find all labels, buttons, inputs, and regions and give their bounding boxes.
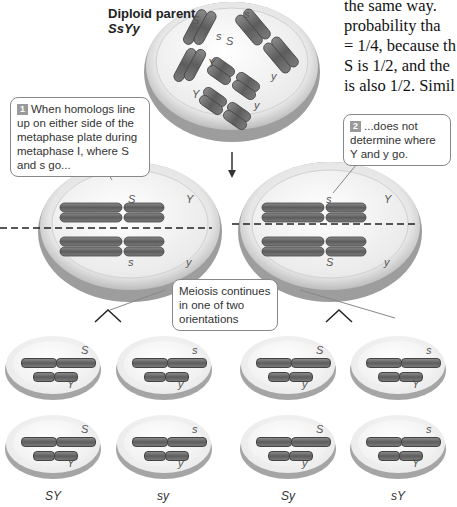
branch-arrow-left-icon [95, 310, 121, 322]
allele-label: s [326, 193, 332, 205]
allele-label: y [271, 70, 277, 82]
gamete-cell: S y [240, 336, 336, 400]
step-badge: 2 [350, 121, 361, 132]
allele-label: s [192, 423, 198, 435]
gamete-cell: s Y [350, 336, 446, 400]
allele-label: S [226, 35, 233, 47]
callout-2: 2...does not determine where Y and y go. [343, 114, 451, 166]
allele-label: S [81, 344, 88, 356]
allele-label: y [178, 457, 184, 469]
allele-label: Y [192, 88, 199, 100]
allele-label: S [192, 14, 199, 26]
allele-label: s [128, 256, 134, 268]
allele-label: s [426, 423, 432, 435]
allele-label: Y [186, 193, 193, 205]
book-line: S is 1/2, and the [344, 56, 456, 76]
allele-label: y [254, 99, 260, 111]
callout-meiosis: Meiosis continues in one of two orientat… [172, 279, 278, 331]
gamete-genotype-label: Sy [258, 489, 318, 503]
callout-text: When homologs line up on either side of … [17, 103, 137, 171]
step-badge: 1 [17, 104, 28, 115]
allele-label: y [302, 378, 308, 390]
allele-label: y [302, 457, 308, 469]
book-line: the same way. [344, 0, 456, 16]
book-line: probability tha [344, 16, 456, 36]
gamete-cell: S Y [5, 415, 101, 479]
allele-label: Y [67, 457, 74, 469]
allele-label: s [244, 8, 250, 20]
book-line: = 1/4, because th [344, 36, 456, 56]
down-arrow-icon [228, 152, 236, 178]
allele-label: s [216, 30, 222, 42]
title-text: Diploid parent [108, 6, 195, 21]
allele-label: y [178, 378, 184, 390]
gamete-cell: s Y [350, 415, 446, 479]
allele-label: y [186, 256, 192, 268]
parent-genotype: SsYy [108, 21, 195, 36]
branch-arrow-right-icon [326, 310, 352, 322]
book-text: the same way. probability tha = 1/4, bec… [344, 0, 456, 96]
allele-label: s [426, 344, 432, 356]
allele-label: S [81, 423, 88, 435]
book-line: is also 1/2. Simil [344, 76, 456, 96]
callout-1: 1When homologs line up on either side of… [10, 97, 150, 177]
gamete-genotype-label: sy [133, 489, 193, 503]
gamete-cell: s y [116, 336, 212, 400]
allele-label: S [316, 423, 323, 435]
allele-label: S [128, 193, 135, 205]
allele-label: Y [384, 193, 391, 205]
callout-text: Meiosis continues in one of two orientat… [179, 285, 270, 325]
gamete-cell: S y [240, 415, 336, 479]
allele-label: S [316, 344, 323, 356]
gamete-genotype-label: sY [368, 489, 428, 503]
gamete-genotype-label: SY [23, 489, 83, 503]
allele-label: Y [208, 57, 215, 69]
allele-label: s [192, 344, 198, 356]
gamete-cell: S Y [5, 336, 101, 400]
allele-label: y [384, 256, 390, 268]
allele-label: S [326, 256, 333, 268]
diagram-title: Diploid parent SsYy [108, 6, 195, 36]
allele-label: Y [412, 378, 419, 390]
callout-text: ...does not determine where Y and y go. [350, 120, 436, 160]
gamete-cell: s y [116, 415, 212, 479]
allele-label: Y [67, 378, 74, 390]
allele-label: Y [412, 457, 419, 469]
